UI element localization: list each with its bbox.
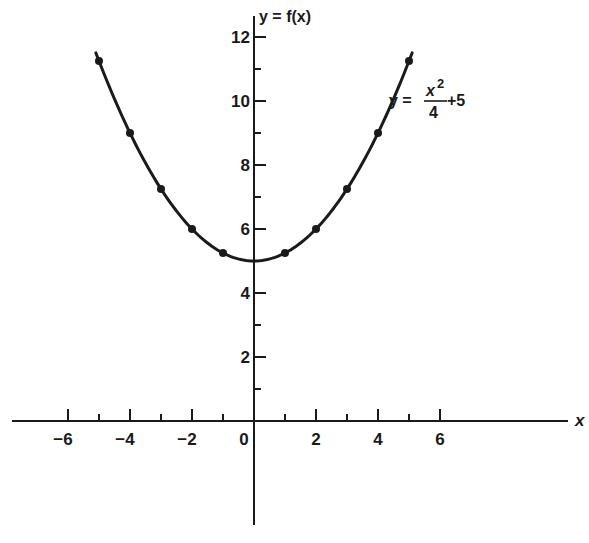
y-axis-label: y = f(x)	[259, 8, 311, 25]
data-point	[343, 185, 351, 193]
y-tick-label: 6	[241, 220, 250, 239]
x-tick-label: 0	[239, 430, 248, 449]
data-point	[312, 225, 320, 233]
x-tick-label: −6	[53, 430, 72, 449]
data-point	[219, 249, 227, 257]
data-point	[126, 129, 134, 137]
data-point	[374, 129, 382, 137]
parabola-chart: −6−4−20246 24681012 x y = f(x) y = x 2 4…	[0, 0, 589, 543]
y-tick-labels: 24681012	[231, 28, 250, 367]
data-point	[405, 57, 413, 65]
y-tick-label: 2	[241, 348, 250, 367]
function-label-numerator: x	[425, 82, 436, 99]
x-tick-label: 4	[373, 430, 383, 449]
y-tick-label: 10	[231, 92, 250, 111]
y-tick-label: 12	[231, 28, 250, 47]
x-axis-label: x	[574, 411, 586, 430]
function-label-prefix: y =	[389, 92, 412, 109]
function-label-denominator: 4	[429, 104, 438, 121]
y-tick-label: 8	[241, 156, 250, 175]
x-tick-label: 6	[435, 430, 444, 449]
function-label-suffix: +5	[447, 92, 465, 109]
x-tick-labels: −6−4−20246	[53, 430, 444, 449]
chart-canvas: −6−4−20246 24681012 x y = f(x) y = x 2 4…	[0, 0, 589, 543]
y-tick-label: 4	[241, 284, 251, 303]
data-point	[157, 185, 165, 193]
axes	[12, 16, 568, 525]
data-point	[188, 225, 196, 233]
x-tick-label: −4	[115, 430, 135, 449]
y-ticks	[254, 37, 266, 389]
x-tick-label: 2	[311, 430, 320, 449]
data-point	[281, 249, 289, 257]
data-point	[95, 57, 103, 65]
x-tick-label: −2	[177, 430, 196, 449]
function-label-exponent: 2	[437, 76, 444, 91]
